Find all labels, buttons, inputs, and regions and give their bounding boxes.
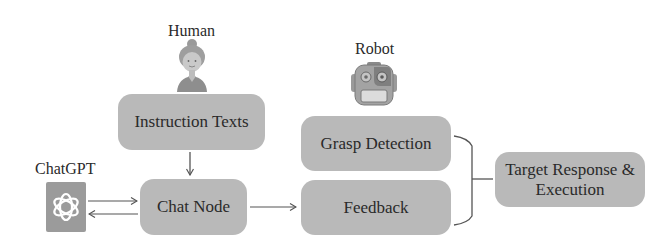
chat-node-label: Chat Node (157, 197, 230, 217)
grasp-detection-label: Grasp Detection (321, 134, 432, 154)
feedback-label: Feedback (343, 198, 408, 218)
target-response-label-line2: Execution (536, 180, 605, 200)
openai-logo-icon (46, 182, 86, 232)
person-icon (175, 38, 209, 92)
feedback-node: Feedback (301, 180, 451, 235)
instruction-texts-node: Instruction Texts (118, 94, 265, 150)
chat-node: Chat Node (140, 179, 247, 235)
chatgpt-label: ChatGPT (35, 160, 95, 178)
brace-connector (454, 136, 472, 225)
robot-icon (350, 62, 398, 106)
robot-label: Robot (355, 40, 394, 58)
diagram-canvas: Human Robot (0, 0, 668, 248)
target-response-node: Target Response & Execution (495, 152, 645, 207)
target-response-label-line1: Target Response & (505, 160, 635, 180)
instruction-texts-label: Instruction Texts (134, 112, 248, 132)
grasp-detection-node: Grasp Detection (301, 116, 451, 171)
